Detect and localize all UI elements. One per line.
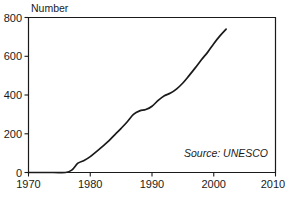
- x-tick-label: 2000: [202, 178, 226, 190]
- x-tick-label: 1980: [78, 178, 102, 190]
- y-tick-label: 800: [4, 12, 22, 24]
- y-tick-label: 600: [4, 50, 22, 62]
- x-axis-tick-labels: 1970 1980 1990 2000 2010: [16, 178, 285, 190]
- y-tick-label: 200: [4, 128, 22, 140]
- x-tick-label: 1990: [140, 178, 164, 190]
- chart-figure: 800 600 400 200 0 1970 1980 1990 2000 20…: [0, 0, 287, 200]
- y-axis-tick-labels: 800 600 400 200 0: [4, 12, 22, 179]
- y-tick-label: 0: [16, 167, 22, 179]
- x-tick-label: 2010: [261, 178, 285, 190]
- x-tick-label: 1970: [16, 178, 40, 190]
- chart-canvas: 800 600 400 200 0 1970 1980 1990 2000 20…: [0, 0, 287, 200]
- y-axis-label: Number: [31, 2, 69, 14]
- source-note: Source: UNESCO: [184, 147, 268, 159]
- y-tick-label: 400: [4, 89, 22, 101]
